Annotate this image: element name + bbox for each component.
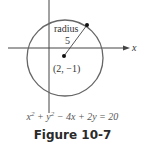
- circle-diagram: x radius 5 (2, −1): [0, 0, 145, 146]
- center-point: [62, 54, 66, 58]
- radius-value: 5: [65, 35, 70, 46]
- circle-equation: x2 + y2 − 4x + 2y = 20: [0, 110, 145, 122]
- x-axis-label: x: [131, 42, 137, 53]
- figure-caption: Figure 10-7: [0, 128, 145, 142]
- circle-point: [85, 23, 89, 27]
- radius-label: radius: [54, 23, 79, 34]
- x-axis-arrow-icon: [123, 46, 130, 51]
- center-label: (2, −1): [53, 63, 80, 75]
